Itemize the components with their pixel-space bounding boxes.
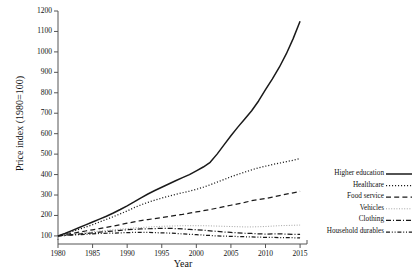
chart-canvas: [0, 0, 415, 280]
y-tick-label: 200: [10, 210, 52, 219]
y-axis-title: Price index (1980=100): [14, 64, 25, 184]
y-tick-label: 1000: [10, 47, 52, 56]
y-tick-label: 800: [10, 88, 52, 97]
y-tick-label: 600: [10, 129, 52, 138]
x-tick-label: 2015: [280, 249, 320, 258]
legend-label-clothing: Clothing: [300, 215, 384, 223]
y-tick-label: 400: [10, 170, 52, 179]
chart-figure: Price index (1980=100) Year 100200300400…: [0, 0, 415, 280]
y-tick-label: 900: [10, 67, 52, 76]
legend-label-vehicles: Vehicles: [300, 204, 384, 212]
series-line-higher-education: [58, 21, 300, 236]
y-tick-label: 700: [10, 108, 52, 117]
legend-label-household-durables: Household durables: [300, 227, 384, 235]
series-line-healthcare: [58, 159, 300, 236]
legend-label-healthcare: Healthcare: [300, 181, 384, 189]
y-tick-label: 1200: [10, 6, 52, 15]
legend-label-food-service: Food service: [300, 192, 384, 200]
y-tick-label: 300: [10, 190, 52, 199]
legend-label-higher-education: Higher education: [300, 169, 384, 177]
y-tick-label: 1100: [10, 26, 52, 35]
series-line-household-durables: [58, 232, 300, 238]
y-tick-label: 500: [10, 149, 52, 158]
x-axis-title: Year: [118, 258, 248, 269]
y-tick-label: 100: [10, 231, 52, 240]
